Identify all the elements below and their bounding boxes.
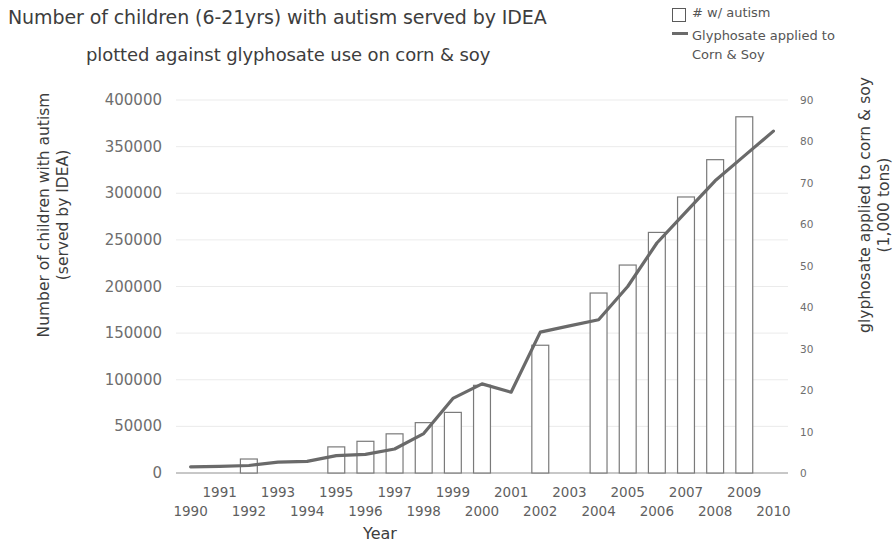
bar — [707, 160, 724, 473]
y-axis-right-tick-label: 40 — [800, 301, 813, 313]
y-axis-left-tick-label: 400000 — [105, 91, 162, 109]
x-axis-tick-label: 2010 — [756, 503, 790, 519]
y-left-ticks: 0500001000001500002000002500003000003500… — [105, 91, 162, 482]
bar — [678, 197, 695, 473]
x-axis-tick-label: 2005 — [611, 484, 645, 500]
x-axis-tick-label: 2008 — [698, 503, 732, 519]
y-right-ticks: 0102030405060708090 — [800, 94, 813, 479]
y-axis-right-tick-label: 20 — [800, 384, 813, 396]
bar — [648, 232, 665, 473]
bars-group — [240, 117, 752, 473]
bar — [619, 265, 636, 473]
y-axis-right-tick-label: 0 — [800, 467, 807, 479]
bar — [532, 345, 549, 473]
y-axis-right-tick-label: 30 — [800, 343, 813, 355]
x-axis-tick-label: 1994 — [290, 503, 324, 519]
y-axis-left-tick-label: 100000 — [105, 371, 162, 389]
y-axis-left-tick-label: 350000 — [105, 138, 162, 156]
bar — [386, 434, 403, 473]
x-axis-tick-label: 1998 — [407, 503, 441, 519]
y-axis-left-tick-label: 200000 — [105, 278, 162, 296]
x-ticks-group: 1991199319951997199920012003200520072009… — [173, 484, 790, 519]
bar — [444, 412, 461, 473]
x-axis-tick-label: 1991 — [203, 484, 237, 500]
y-axis-left-tick-label: 250000 — [105, 231, 162, 249]
bar — [328, 447, 345, 473]
y-axis-left-tick-label: 300000 — [105, 184, 162, 202]
x-axis-tick-label: 2002 — [523, 503, 557, 519]
y-axis-left-tick-label: 50000 — [114, 417, 162, 435]
y-axis-left-tick-label: 150000 — [105, 324, 162, 342]
x-axis-tick-label: 1997 — [377, 484, 411, 500]
x-axis-tick-label: 2001 — [494, 484, 528, 500]
bar — [357, 441, 374, 473]
y-axis-right-tick-label: 70 — [800, 177, 813, 189]
y-axis-right-tick-label: 90 — [800, 94, 813, 106]
y-axis-right-title-line2: (1,000 tons) — [875, 158, 893, 253]
x-axis-tick-label: 2000 — [465, 503, 499, 519]
y-axis-right-tick-label: 60 — [800, 218, 813, 230]
x-axis-tick-label: 1995 — [319, 484, 353, 500]
y-axis-right-tick-label: 80 — [800, 135, 813, 147]
y-axis-right-tick-label: 50 — [800, 260, 813, 272]
x-axis-tick-label: 1992 — [232, 503, 266, 519]
y-axis-left-tick-label: 0 — [152, 464, 162, 482]
x-axis-tick-label: 2007 — [669, 484, 703, 500]
x-axis-tick-label: 2004 — [581, 503, 615, 519]
x-axis-tick-label: 2006 — [640, 503, 674, 519]
x-axis-tick-label: 1990 — [173, 503, 207, 519]
x-axis-tick-label: 2003 — [552, 484, 586, 500]
x-axis-tick-label: 2009 — [727, 484, 761, 500]
y-axis-right-tick-label: 10 — [800, 426, 813, 438]
bar — [415, 423, 432, 473]
x-axis-tick-label: 1999 — [436, 484, 470, 500]
x-axis-tick-label: 1996 — [348, 503, 382, 519]
bar — [474, 385, 491, 473]
x-axis-tick-label: 1993 — [261, 484, 295, 500]
bar — [736, 117, 753, 473]
